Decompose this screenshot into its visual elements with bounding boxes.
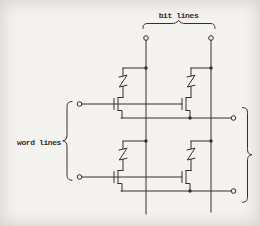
junction-dot — [188, 189, 191, 192]
mosfet-icon — [114, 171, 123, 192]
source-line-2 — [121, 189, 236, 194]
bit-lines-brace — [143, 20, 215, 28]
mosfet-icon — [182, 98, 191, 119]
fuse-icon — [119, 68, 127, 98]
word-line-1 — [77, 102, 182, 107]
scanned-schematic-page: bit lines word lines — [0, 0, 260, 226]
junction-dot — [209, 139, 212, 142]
right-brace — [243, 108, 252, 203]
word-lines-brace — [63, 102, 72, 181]
word-line-2 — [77, 175, 182, 180]
junction-dot — [188, 116, 191, 119]
word-lines-label: word lines — [17, 138, 62, 147]
mosfet-icon — [114, 98, 123, 119]
bit-line-terminal-1 — [144, 36, 149, 41]
junction-dot — [144, 66, 147, 69]
junction-dot — [209, 66, 212, 69]
memory-array-schematic: bit lines word lines — [0, 0, 260, 226]
word-line-terminal-1 — [77, 102, 82, 107]
word-line-terminal-2 — [77, 175, 82, 180]
bit-line-1 — [144, 36, 149, 214]
bit-lines-label: bit lines — [159, 11, 199, 20]
memory-cell-4 — [182, 139, 213, 192]
junction-dot — [144, 139, 147, 142]
memory-cell-2 — [182, 66, 213, 119]
source-line-1 — [121, 116, 236, 121]
fuse-icon — [119, 141, 127, 171]
memory-cell-3 — [114, 139, 148, 191]
bit-line-terminal-2 — [209, 36, 214, 41]
bit-line-2 — [209, 36, 214, 212]
fuse-icon — [187, 68, 195, 98]
memory-cell-1 — [114, 66, 148, 118]
fuse-icon — [187, 141, 195, 171]
mosfet-icon — [182, 171, 191, 192]
source-line-terminal-2 — [231, 189, 236, 194]
source-line-terminal-1 — [231, 116, 236, 121]
